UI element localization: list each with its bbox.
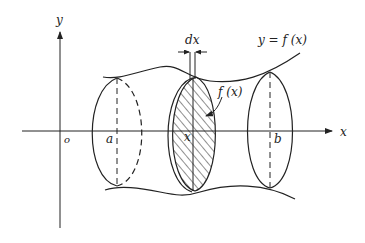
cross-section-slice (168, 77, 215, 192)
diagram-canvas: y x o a x b dx y = f (x) f (x) (0, 0, 365, 243)
ellipse-b (248, 72, 293, 188)
dx-marker (178, 52, 207, 79)
a-label: a (106, 132, 113, 146)
origin-label: o (64, 134, 70, 145)
curve-label: y = f (x) (257, 33, 307, 47)
cross-section-label: f (x) (217, 85, 243, 99)
solid-of-revolution-diagram: y x o a x b dx y = f (x) f (x) (0, 0, 365, 243)
dx-label: dx (185, 33, 200, 47)
b-label: b (274, 132, 282, 146)
x-axis-label: x (340, 125, 347, 139)
ellipse-a (92, 78, 142, 186)
x-position-label: x (184, 130, 191, 144)
y-axis-label: y (55, 13, 63, 27)
